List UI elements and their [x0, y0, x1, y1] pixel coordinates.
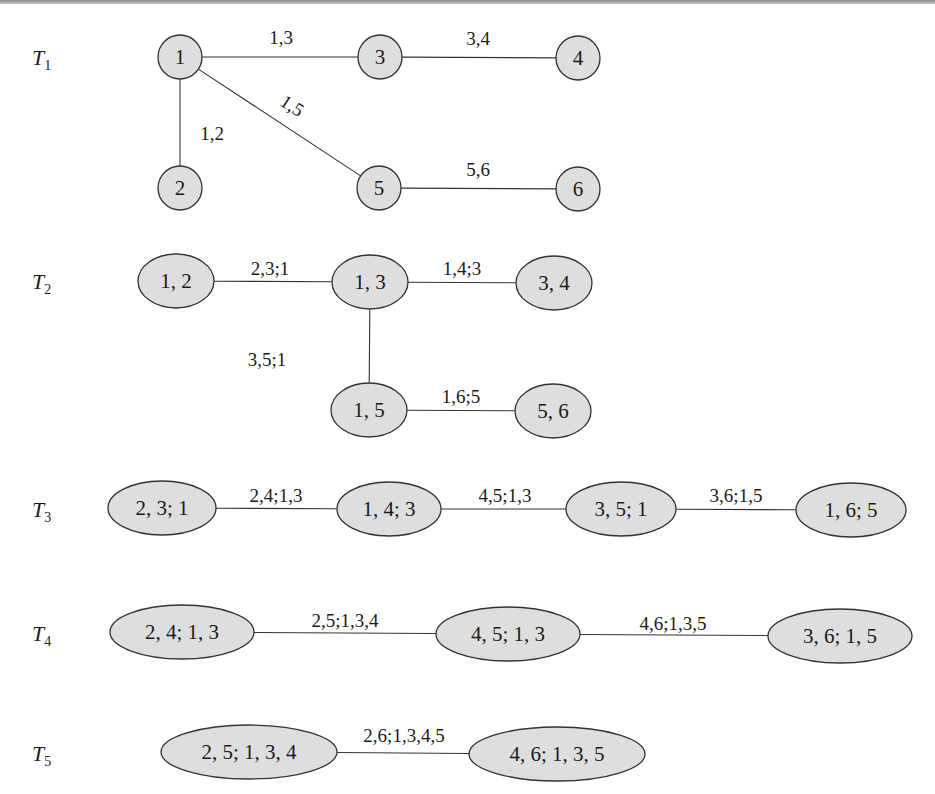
edge-line — [369, 309, 370, 383]
edge-line — [676, 509, 796, 510]
tree-label-subscript: 1 — [44, 58, 51, 73]
edge-line — [580, 634, 768, 635]
tree-node: 4, 5; 1, 3 — [436, 607, 580, 661]
tree-node: 3, 5; 1 — [566, 482, 676, 536]
tree-node: 1 — [158, 35, 202, 79]
edge: 3,5;1 — [248, 309, 370, 383]
tree-node: 2, 5; 1, 3, 4 — [161, 725, 337, 779]
node-label: 4 — [573, 46, 584, 70]
tree-node: 4 — [556, 36, 600, 80]
edge-label: 2,3;1 — [251, 258, 290, 279]
edge: 1,6;5 — [407, 386, 515, 411]
node-label: 1, 6; 5 — [824, 498, 877, 522]
tree-node: 1, 5 — [331, 383, 407, 437]
tree-node: 6 — [556, 167, 600, 211]
tree-node: 5 — [357, 166, 401, 210]
edge-line — [407, 410, 515, 411]
edge-label: 1,3 — [269, 27, 293, 48]
edge-label: 4,5;1,3 — [479, 485, 532, 506]
node-label: 3, 5; 1 — [594, 497, 647, 521]
tree-node: 1, 6; 5 — [796, 483, 906, 537]
tree-label-subscript: 3 — [44, 510, 51, 525]
tree-node: 5, 6 — [515, 384, 591, 438]
node-label: 5 — [374, 176, 385, 200]
tree-T4: T42,5;1,3,44,6;1,3,52, 4; 1, 34, 5; 1, 3… — [32, 605, 912, 663]
node-label: 3, 4 — [538, 271, 570, 295]
node-label: 1 — [175, 45, 186, 69]
edge-label: 2,5;1,3,4 — [311, 610, 379, 631]
tree-node: 2 — [158, 166, 202, 210]
tree-node: 3, 6; 1, 5 — [768, 609, 912, 663]
edge: 1,4;3 — [408, 258, 516, 283]
edge: 2,5;1,3,4 — [254, 610, 436, 634]
edge-label: 3,4 — [466, 28, 490, 49]
edge: 3,4 — [402, 28, 556, 58]
tree-T2: T22,3;11,4;33,5;11,6;51, 21, 33, 41, 55,… — [32, 254, 592, 438]
edge-label: 1,2 — [200, 123, 224, 144]
node-label: 2, 4; 1, 3 — [145, 620, 219, 644]
tree-T5: T52,6;1,3,4,52, 5; 1, 3, 44, 6; 1, 3, 5 — [32, 725, 645, 781]
edge-line — [214, 281, 332, 282]
tree-node: 1, 3 — [332, 255, 408, 309]
edge-line — [408, 282, 516, 283]
edge-line — [402, 57, 556, 58]
tree-node: 2, 3; 1 — [108, 481, 216, 535]
edge: 5,6 — [401, 159, 556, 189]
edge: 2,4;1,3 — [216, 485, 337, 509]
tree-node: 2, 4; 1, 3 — [110, 605, 254, 659]
node-label: 4, 6; 1, 3, 5 — [509, 742, 604, 766]
edge-label: 3,6;1,5 — [710, 485, 763, 506]
tree-node: 1, 4; 3 — [337, 482, 441, 536]
node-label: 1, 3 — [354, 270, 386, 294]
node-label: 1, 2 — [160, 269, 192, 293]
edge: 3,6;1,5 — [676, 485, 796, 510]
tree-label: T2 — [32, 269, 51, 297]
tree-label: T5 — [32, 741, 51, 769]
tree-label: T3 — [32, 497, 51, 525]
edge: 1,2 — [180, 79, 224, 166]
edge-line — [216, 508, 337, 509]
node-label: 3, 6; 1, 5 — [803, 624, 877, 648]
tree-label-subscript: 2 — [44, 282, 51, 297]
node-label: 1, 5 — [353, 398, 385, 422]
node-label: 4, 5; 1, 3 — [471, 622, 545, 646]
edge: 4,5;1,3 — [441, 485, 566, 509]
tree-T1: T11,33,41,21,55,6123456 — [32, 27, 600, 211]
edge-line — [254, 632, 436, 633]
tree-node: 3, 4 — [516, 256, 592, 310]
node-label: 5, 6 — [537, 399, 569, 423]
tree-T3: T32,4;1,34,5;1,33,6;1,52, 3; 11, 4; 33, … — [32, 481, 906, 537]
node-label: 6 — [573, 177, 584, 201]
edge-line — [401, 188, 556, 189]
edge-label: 3,5;1 — [248, 349, 287, 370]
node-label: 2, 5; 1, 3, 4 — [201, 740, 297, 764]
edge-label: 5,6 — [466, 159, 490, 180]
tree-diagram: T11,33,41,21,55,6123456T22,3;11,4;33,5;1… — [0, 0, 935, 794]
edge: 1,3 — [202, 27, 358, 57]
tree-label-subscript: 4 — [44, 634, 51, 649]
edge-label: 2,6;1,3,4,5 — [363, 725, 444, 746]
edge-label: 4,6;1,3,5 — [639, 613, 706, 634]
edge-label: 1,4;3 — [443, 258, 482, 279]
edge-line — [337, 753, 469, 754]
edge: 4,6;1,3,5 — [580, 613, 768, 636]
edge-label: 2,4;1,3 — [250, 485, 303, 506]
edge: 2,6;1,3,4,5 — [337, 725, 469, 753]
edge: 2,3;1 — [214, 258, 332, 282]
tree-label-subscript: 5 — [44, 754, 51, 769]
tree-label: T4 — [32, 621, 51, 649]
tree-label: T1 — [32, 45, 51, 73]
node-label: 2 — [175, 176, 186, 200]
node-label: 2, 3; 1 — [135, 496, 188, 520]
tree-node: 3 — [358, 35, 402, 79]
edge-label: 1,6;5 — [442, 386, 481, 407]
node-label: 1, 4; 3 — [362, 497, 415, 521]
edge-label: 1,5 — [277, 90, 308, 121]
tree-node: 4, 6; 1, 3, 5 — [469, 727, 645, 781]
tree-node: 1, 2 — [138, 254, 214, 308]
node-label: 3 — [375, 45, 386, 69]
